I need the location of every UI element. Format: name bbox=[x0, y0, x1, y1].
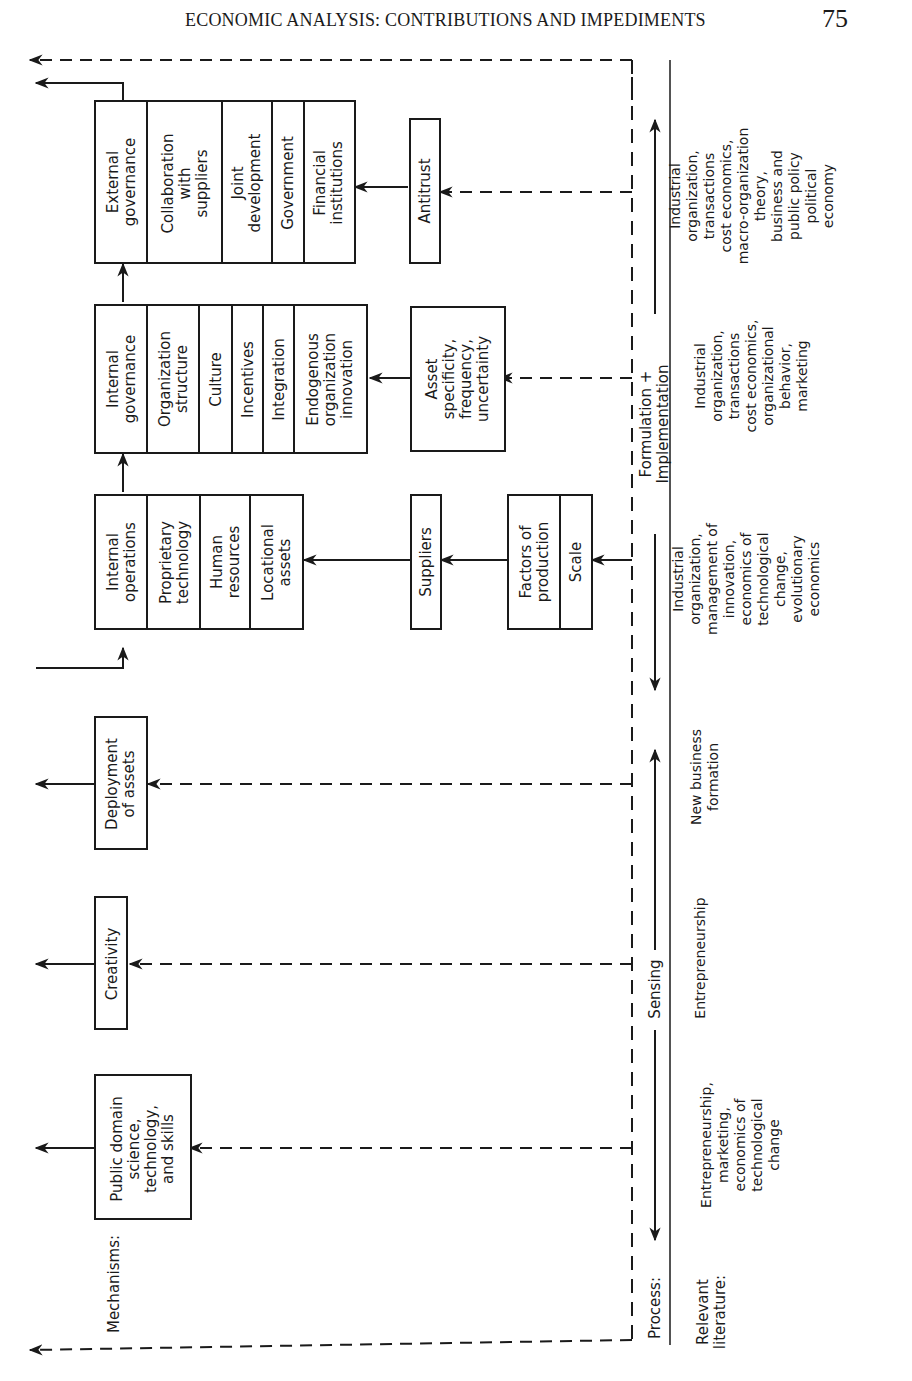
government-label: Government bbox=[272, 101, 304, 265]
integration-label: Integration bbox=[264, 305, 295, 455]
organization-structure-cell: Organization structure bbox=[148, 306, 200, 452]
literature-external-governance: Industrial organization, transactions co… bbox=[666, 112, 838, 280]
proprietary-technology-cell: Proprietary technology bbox=[148, 496, 201, 628]
public-domain-box: Public domain science, technology, and s… bbox=[94, 1074, 192, 1220]
literature-public-domain: Entrepreneurship, marketing, economics o… bbox=[695, 1075, 785, 1215]
literature-creativity: Entrepreneurship bbox=[690, 898, 710, 1018]
financial-institutions-label: Financial institutions bbox=[304, 101, 354, 265]
joint-development-cell: Joint development bbox=[223, 102, 273, 262]
incentives-cell: Incentives bbox=[233, 306, 264, 452]
creativity-box: Creativity bbox=[94, 896, 128, 1030]
collaboration-cell: Collaboration with suppliers bbox=[148, 102, 223, 262]
organization-structure-label: Organization structure bbox=[148, 304, 200, 454]
factors-box: Factors of production Scale bbox=[507, 494, 593, 630]
sensing-label: Sensing bbox=[645, 954, 665, 1024]
external-governance-header-cell: External governance bbox=[96, 102, 148, 262]
suppliers-box: Suppliers bbox=[410, 494, 442, 630]
internal-operations-label: Internal operations bbox=[96, 494, 148, 630]
incentives-label: Incentives bbox=[233, 305, 264, 455]
creativity-label: Creativity bbox=[97, 897, 127, 1031]
integration-cell: Integration bbox=[264, 306, 295, 452]
collaboration-label: Collaboration with suppliers bbox=[148, 102, 223, 266]
internal-governance-box: Internal governance Organization structu… bbox=[94, 304, 368, 454]
endogenous-innovation-cell: Endogenous organization innovation bbox=[295, 306, 366, 452]
internal-operations-box: Internal operations Proprietary technolo… bbox=[94, 494, 304, 630]
deployment-of-assets-label: Deployment of assets bbox=[96, 717, 146, 851]
endogenous-innovation-label: Endogenous organization innovation bbox=[295, 305, 366, 455]
human-resources-label: Human resources bbox=[201, 494, 251, 630]
public-domain-label: Public domain science, technology, and s… bbox=[96, 1076, 190, 1222]
suppliers-label: Suppliers bbox=[412, 494, 440, 630]
human-resources-cell: Human resources bbox=[201, 496, 251, 628]
scale-cell: Scale bbox=[561, 496, 591, 628]
literature-internal-operations: Industrial organization, management of i… bbox=[667, 499, 825, 659]
relevant-literature-row-label: Relevant literature: bbox=[690, 1262, 734, 1362]
literature-internal-governance: Industrial organization, transactions co… bbox=[695, 306, 807, 446]
formulation-implementation-label: Formulation + Implementation bbox=[645, 314, 665, 534]
antitrust-label: Antitrust bbox=[411, 118, 439, 264]
proprietary-technology-label: Proprietary technology bbox=[148, 495, 201, 631]
asset-specificity-label: Asset specificity, frequency, uncertaint… bbox=[412, 306, 504, 452]
financial-institutions-cell: Financial institutions bbox=[305, 102, 355, 262]
internal-operations-header-cell: Internal operations bbox=[96, 496, 148, 628]
antitrust-box: Antitrust bbox=[409, 118, 441, 264]
asset-specificity-box: Asset specificity, frequency, uncertaint… bbox=[410, 306, 506, 452]
government-cell: Government bbox=[273, 102, 305, 262]
scale-label: Scale bbox=[561, 494, 591, 630]
mechanisms-row-label: Mechanisms: bbox=[102, 1224, 126, 1344]
locational-assets-cell: Locational assets bbox=[251, 496, 302, 628]
culture-label: Culture bbox=[200, 305, 233, 455]
culture-cell: Culture bbox=[200, 306, 233, 452]
joint-development-label: Joint development bbox=[222, 101, 272, 265]
external-governance-label: External governance bbox=[96, 100, 148, 264]
internal-governance-header-cell: Internal governance bbox=[96, 306, 148, 452]
locational-assets-label: Locational assets bbox=[251, 495, 302, 631]
deployment-of-assets-box: Deployment of assets bbox=[94, 716, 148, 850]
process-row-label: Process: bbox=[643, 1268, 667, 1348]
literature-deployment: New business formation bbox=[686, 722, 724, 832]
factors-of-production-cell: Factors of production bbox=[509, 496, 561, 628]
factors-of-production-label: Factors of production bbox=[509, 494, 561, 630]
external-governance-box: External governance Collaboration with s… bbox=[94, 100, 356, 264]
internal-governance-label: Internal governance bbox=[96, 304, 148, 454]
